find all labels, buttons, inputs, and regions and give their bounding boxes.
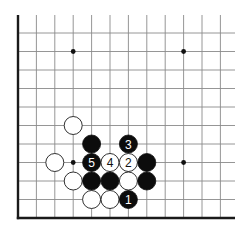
white-stone-icon — [83, 191, 101, 209]
white-stone-icon — [64, 172, 82, 190]
move-number: 1 — [125, 193, 132, 207]
white-stone — [119, 172, 137, 190]
black-stone-move-3: 3 — [119, 135, 137, 153]
black-stone — [83, 172, 101, 190]
black-stone-move-1: 1 — [119, 191, 137, 209]
black-stone-icon — [83, 172, 101, 190]
black-stone — [138, 172, 156, 190]
white-stone-icon — [119, 172, 137, 190]
black-stone — [83, 135, 101, 153]
star-point-icon — [181, 49, 186, 54]
white-stone-move-2: 2 — [119, 154, 137, 172]
move-number: 2 — [125, 156, 132, 170]
star-point-icon — [71, 160, 76, 165]
move-number: 3 — [125, 138, 132, 152]
black-stone-icon — [101, 172, 119, 190]
move-number: 5 — [88, 156, 95, 170]
white-stone — [64, 117, 82, 135]
go-board: 35421 — [0, 0, 252, 231]
white-stone — [64, 172, 82, 190]
white-stone — [101, 191, 119, 209]
black-stone — [138, 154, 156, 172]
black-stone-icon — [138, 172, 156, 190]
black-stone — [101, 172, 119, 190]
white-stone — [46, 154, 64, 172]
move-number: 4 — [107, 156, 114, 170]
white-stone-icon — [46, 154, 64, 172]
black-stone-move-5: 5 — [83, 154, 101, 172]
white-stone-icon — [64, 117, 82, 135]
black-stone-icon — [83, 135, 101, 153]
star-point-icon — [181, 160, 186, 165]
stones: 35421 — [46, 117, 156, 209]
white-stone-icon — [101, 191, 119, 209]
black-stone-icon — [138, 154, 156, 172]
white-stone — [83, 191, 101, 209]
star-point-icon — [71, 49, 76, 54]
white-stone-move-4: 4 — [101, 154, 119, 172]
